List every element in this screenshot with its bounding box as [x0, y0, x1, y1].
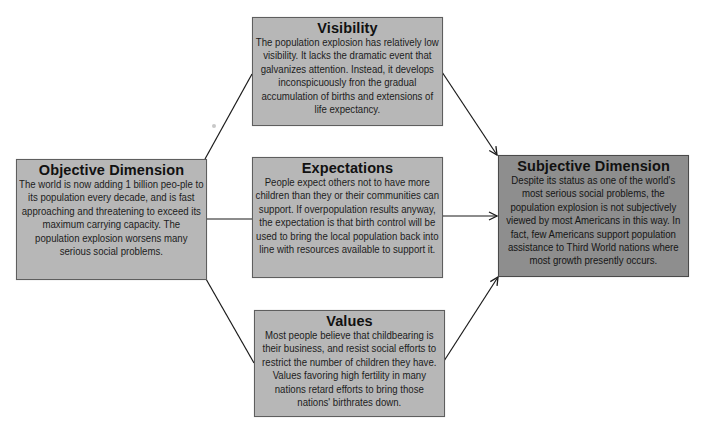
node-title: Expectations [255, 161, 440, 176]
node-body: People expect others not to have more ch… [255, 176, 440, 256]
node-body: Despite its status as one of the world's… [501, 174, 686, 268]
node-visibility: Visibility The population explosion has … [252, 17, 443, 126]
stray-dot [212, 124, 216, 128]
node-subjective-dimension: Subjective Dimension Despite its status … [498, 155, 689, 277]
node-title: Visibility [255, 21, 440, 36]
node-values: Values Most people believe that childbea… [254, 310, 445, 417]
node-title: Subjective Dimension [501, 159, 686, 174]
node-expectations: Expectations People expect others not to… [252, 157, 443, 278]
node-body: Most people believe that childbearing is… [257, 329, 442, 409]
node-body: The population explosion has relatively … [255, 36, 440, 116]
edge-objective-visibility [205, 74, 252, 159]
node-body: The world is now adding 1 billion peo-pl… [19, 178, 204, 258]
node-title: Values [257, 314, 442, 329]
node-objective-dimension: Objective Dimension The world is now add… [16, 159, 207, 280]
edge-visibility-subjective [442, 72, 497, 155]
edge-objective-values [206, 279, 254, 363]
node-title: Objective Dimension [19, 163, 204, 178]
edge-values-subjective [444, 277, 498, 361]
